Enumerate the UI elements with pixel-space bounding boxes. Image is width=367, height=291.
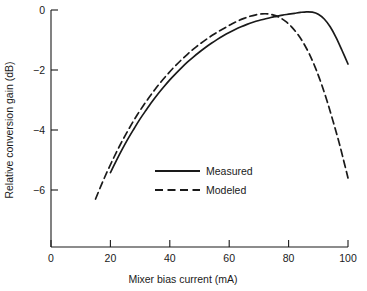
x-axis-ticks <box>51 240 348 247</box>
chart-figure: 0−2−4−6 020406080100 MeasuredModeled Mix… <box>0 0 367 291</box>
y-tick-label: −2 <box>33 64 45 76</box>
y-tick-label: 0 <box>39 4 45 16</box>
x-tick-label: 20 <box>105 252 117 264</box>
x-axis-title: Mixer bias current (mA) <box>128 273 237 285</box>
y-tick-label: −4 <box>33 124 45 136</box>
legend-label-measured: Measured <box>206 165 253 177</box>
x-axis-tick-labels: 020406080100 <box>48 252 357 264</box>
x-tick-label: 0 <box>48 252 54 264</box>
x-tick-label: 40 <box>164 252 176 264</box>
series-line-measured <box>110 12 348 173</box>
y-axis-tick-labels: 0−2−4−6 <box>33 4 45 196</box>
x-tick-label: 60 <box>223 252 235 264</box>
y-axis-title: Relative conversion gain (dB) <box>3 61 15 198</box>
y-tick-label: −6 <box>33 184 45 196</box>
line-chart: 0−2−4−6 020406080100 MeasuredModeled Mix… <box>0 0 367 291</box>
legend-label-modeled: Modeled <box>206 184 246 196</box>
x-tick-label: 100 <box>339 252 357 264</box>
y-axis-ticks <box>51 10 58 190</box>
x-tick-label: 80 <box>283 252 295 264</box>
chart-legend: MeasuredModeled <box>155 165 253 196</box>
